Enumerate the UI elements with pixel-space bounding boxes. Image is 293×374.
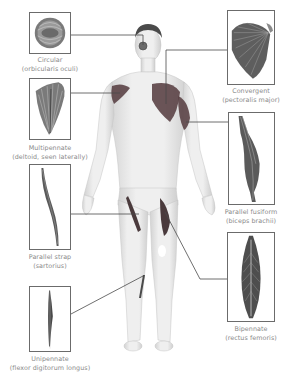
parallel-strap-example-label: (sartorius) <box>0 262 100 271</box>
parallel-fusiform-example-label: (biceps brachii) <box>201 217 293 226</box>
circular-muscle-icon <box>30 13 70 53</box>
bipennate-example-label: (rectus femoris) <box>201 334 293 343</box>
leader-circular <box>71 35 143 45</box>
parallel-strap-muscle-box <box>29 164 71 250</box>
multipennate-example-label: (deltoid, seen laterally) <box>0 153 100 162</box>
multipennate-muscle-box <box>29 78 71 140</box>
unipennate-muscle-box <box>29 286 71 352</box>
parallel-strap-muscle-icon <box>30 165 70 249</box>
convergent-type-label: Convergent <box>201 87 293 96</box>
parallel-fusiform-muscle-box <box>228 112 275 205</box>
convergent-muscle-icon <box>228 11 274 84</box>
parallel-fusiform-type-label: Parallel fusiform <box>201 208 293 217</box>
convergent-example-label: (pectoralis major) <box>201 96 293 105</box>
unipennate-muscle-icon <box>30 287 70 351</box>
circular-type-label: Circular <box>0 56 100 65</box>
convergent-muscle-box <box>227 10 275 85</box>
body-muscle-highlights <box>111 42 190 298</box>
multipennate-type-label: Multipennate <box>0 144 100 153</box>
unipennate-example-label: (flexor digitorum longus) <box>0 364 100 373</box>
multipennate-muscle-icon <box>30 79 70 139</box>
parallel-fusiform-muscle-icon <box>229 113 274 204</box>
bipennate-muscle-icon <box>228 233 274 321</box>
parallel-strap-type-label: Parallel strap <box>0 253 100 262</box>
unipennate-type-label: Unipennate <box>0 355 100 364</box>
leader-unipennate <box>71 276 143 314</box>
bipennate-muscle-box <box>227 232 275 322</box>
circular-muscle-box <box>29 12 71 54</box>
circular-example-label: (orbicularis oculi) <box>0 65 100 74</box>
bipennate-type-label: Bipennate <box>201 325 293 334</box>
